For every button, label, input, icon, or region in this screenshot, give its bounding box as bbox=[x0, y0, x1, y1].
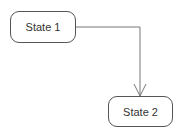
state-label: State 1 bbox=[26, 21, 61, 33]
state-label: State 2 bbox=[123, 106, 158, 118]
transition-line bbox=[76, 27, 140, 96]
state-node-1[interactable]: State 1 bbox=[10, 11, 76, 43]
state-node-2[interactable]: State 2 bbox=[108, 96, 173, 127]
transition-state1-to-state2[interactable] bbox=[76, 27, 146, 96]
diagram-canvas: State 1 State 2 bbox=[0, 0, 181, 136]
